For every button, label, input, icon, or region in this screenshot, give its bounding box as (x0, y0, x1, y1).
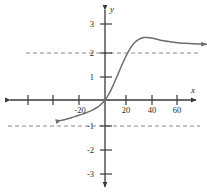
y-tick-label-1: 1 (80, 73, 94, 82)
y-tick-label-minus2: -2 (76, 146, 94, 155)
coordinate-plot (0, 0, 207, 195)
y-tick-label-2: 2 (80, 49, 94, 58)
x-axis-label: x (191, 86, 195, 95)
y-tick-label-3: 3 (80, 20, 94, 29)
graph-figure: y x -20 20 40 60 3 2 1 -1 -2 -3 (0, 0, 207, 195)
x-tick-label-40: 40 (142, 106, 162, 115)
x-tick-label-minus20: -20 (69, 106, 91, 115)
y-tick-label-minus3: -3 (76, 170, 94, 179)
y-tick-label-minus1: -1 (76, 122, 94, 131)
x-tick-label-60: 60 (167, 106, 187, 115)
x-tick-label-20: 20 (116, 106, 136, 115)
y-axis-label: y (110, 5, 114, 14)
